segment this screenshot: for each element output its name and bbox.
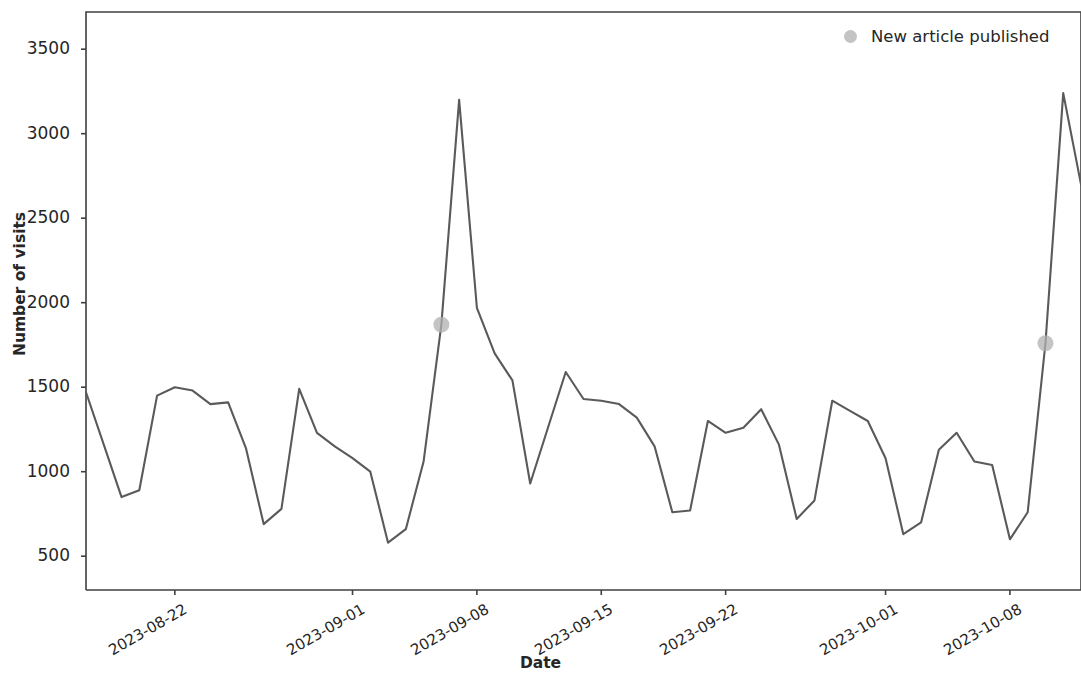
x-axis-label: Date [0,654,1081,672]
legend-label: New article published [871,27,1050,46]
article-published-marker[interactable] [433,317,449,333]
y-axis-label: Number of visits [11,194,29,374]
visits-line-series [86,93,1081,543]
y-axis-label-wrapper: Number of visits [0,0,36,590]
article-published-markers[interactable] [433,317,1053,352]
line-chart-figure: 500100015002000250030003500 2023-08-2220… [0,0,1081,684]
plot-canvas [0,0,1081,684]
axes-spines [86,12,1081,590]
article-published-marker[interactable] [1037,335,1053,351]
axes-frame [86,12,1081,590]
legend-marker-icon [844,30,857,43]
chart-legend: New article published [826,20,1054,52]
